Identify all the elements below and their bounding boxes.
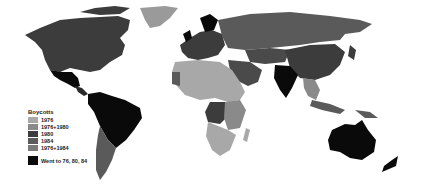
region-arctic-islands [80, 6, 130, 15]
region-new-guinea [355, 110, 378, 118]
region-australia [328, 120, 376, 160]
legend-item-1976-1980: 1976+1980 [28, 124, 118, 131]
legend-label: 1976+1984 [41, 145, 69, 151]
legend-label: 1980 [41, 131, 53, 137]
legend-item-1976-1984: 1976+1984 [28, 145, 118, 152]
legend-swatch [28, 124, 38, 130]
region-russia [218, 12, 372, 50]
legend-swatch [28, 138, 38, 144]
region-east-africa [224, 100, 246, 130]
legend-label: 1984 [41, 138, 53, 144]
region-japan [348, 45, 356, 60]
region-central-asia [245, 48, 290, 64]
legend-swatch [28, 131, 38, 137]
region-north-america [25, 16, 130, 72]
region-west-africa-dark [172, 72, 180, 86]
legend-swatch [28, 156, 38, 165]
region-southeast-asia [303, 78, 320, 100]
region-scandinavia [200, 14, 218, 32]
legend-title: Boycotts [28, 109, 118, 115]
legend-item-1980: 1980 [28, 131, 118, 138]
legend-label: 1976+1980 [41, 124, 69, 130]
legend-label: Went to 76, 80, 84 [41, 158, 87, 164]
region-mexico [50, 70, 80, 88]
region-new-zealand [382, 156, 398, 172]
region-greenland [140, 6, 178, 28]
legend-item-1976: 1976 [28, 117, 118, 124]
legend-item-1984: 1984 [28, 138, 118, 145]
region-indonesia [310, 100, 345, 114]
region-madagascar [243, 128, 250, 142]
legend-swatch [28, 117, 38, 123]
region-central-america [75, 86, 88, 96]
legend-label: 1976 [41, 117, 53, 123]
legend-item-attended-all: Went to 76, 80, 84 [28, 156, 118, 166]
legend-swatch [28, 145, 38, 151]
world-map: Boycotts 1976 1976+1980 1980 1984 1976+1… [0, 0, 424, 189]
map-legend: Boycotts 1976 1976+1980 1980 1984 1976+1… [28, 109, 118, 166]
